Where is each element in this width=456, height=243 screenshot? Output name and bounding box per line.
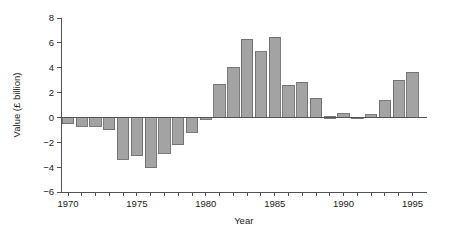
bar-group: [241, 39, 252, 117]
bar-1983: [241, 39, 252, 117]
bar-group: [393, 80, 404, 117]
bar-1994: [393, 80, 404, 117]
x-tick-label-1970: 1970: [57, 198, 78, 209]
bar-1987: [297, 82, 308, 117]
bar-group: [338, 114, 349, 118]
y-tick-label-4: 4: [49, 62, 54, 73]
y-tick-label-0: 0: [49, 112, 54, 123]
bar-group: [283, 85, 294, 117]
bar-1986: [283, 85, 294, 117]
bar-group: [255, 52, 266, 118]
bar-group: [407, 72, 418, 117]
bar-group: [159, 117, 170, 153]
bar-1981: [214, 84, 225, 117]
bar-1985: [269, 37, 280, 117]
bar-1978: [173, 117, 184, 144]
x-tick-label-1985: 1985: [264, 198, 285, 209]
bar-1995: [407, 72, 418, 117]
x-tick-label-1990: 1990: [333, 198, 354, 209]
bar-group: [90, 117, 101, 126]
bar-group: [62, 117, 73, 123]
bar-1972: [90, 117, 101, 126]
bar-1984: [255, 52, 266, 118]
bar-1990: [338, 114, 349, 118]
bar-group: [297, 82, 308, 117]
x-tick-label-1995: 1995: [402, 198, 423, 209]
bar-group: [131, 117, 142, 156]
bar-group: [117, 117, 128, 159]
chart-plot-area: −6−4−202468197019751980198519901995YearV…: [0, 0, 456, 243]
bar-1979: [186, 117, 197, 132]
bar-group: [76, 117, 87, 126]
bar-group: [104, 117, 115, 129]
bar-group: [214, 84, 225, 117]
y-tick-label-2: 2: [49, 87, 54, 98]
bar-group: [310, 98, 321, 117]
bar-group: [379, 101, 390, 118]
bar-1976: [145, 117, 156, 167]
bar-group: [186, 117, 197, 132]
y-tick-label-8: 8: [49, 12, 54, 23]
bar-group: [269, 37, 280, 117]
x-axis-title: Year: [234, 215, 253, 226]
bar-1993: [379, 101, 390, 118]
bar-1988: [310, 98, 321, 117]
y-tick-label--6: −6: [43, 186, 54, 197]
bar-1971: [76, 117, 87, 126]
bar-1975: [131, 117, 142, 156]
bar-1974: [117, 117, 128, 159]
bar-group: [228, 67, 239, 117]
bar-group: [145, 117, 156, 167]
x-tick-label-1980: 1980: [195, 198, 216, 209]
y-tick-label-6: 6: [49, 37, 54, 48]
bar-chart-figure: −6−4−202468197019751980198519901995YearV…: [0, 0, 456, 243]
bar-1977: [159, 117, 170, 153]
bar-1970: [62, 117, 73, 123]
bar-group: [173, 117, 184, 144]
y-axis-title: Value (£ billion): [11, 73, 22, 138]
x-tick-label-1975: 1975: [126, 198, 147, 209]
bar-1973: [104, 117, 115, 129]
y-tick-label--2: −2: [43, 137, 54, 148]
y-tick-label--4: −4: [43, 162, 54, 173]
bar-1982: [228, 67, 239, 117]
